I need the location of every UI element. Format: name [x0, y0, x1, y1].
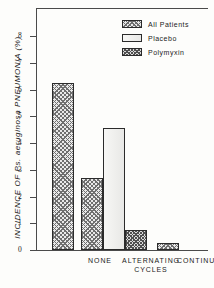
y-axis-tick-label: 7 — [18, 59, 22, 67]
x-axis-category-label: CONTINUOUS — [177, 256, 214, 265]
bar-polymyxin — [125, 230, 147, 250]
x-axis-spine — [36, 250, 208, 251]
legend-swatch-icon — [122, 48, 142, 56]
bar-all-patients — [81, 178, 103, 250]
legend-item-label: All Patients — [148, 21, 189, 28]
y-axis-tick — [30, 223, 36, 224]
y-axis-tick-label: 1 — [18, 220, 22, 228]
bar-all-patients — [157, 243, 179, 250]
x-axis-category-label: NONE — [88, 256, 112, 265]
y-axis-tick-label: 3 — [18, 166, 22, 174]
y-axis-title-prefix: INCIDENCE OF — [13, 172, 22, 239]
y-axis-tick — [30, 90, 36, 91]
figure-canvas: INCIDENCE OF Ps. aeruginosa PNEUMONIA (%… — [0, 0, 214, 288]
y-axis-tick — [30, 143, 36, 144]
y-axis-tick — [30, 36, 36, 37]
legend-item-label: Placebo — [148, 35, 177, 42]
y-axis-title-suffix: PNEUMONIA (%) — [13, 36, 22, 109]
y-axis-tick — [30, 63, 36, 64]
y-axis-tick-label: 4 — [18, 139, 22, 147]
legend-item: All Patients — [122, 18, 189, 30]
y-axis-tick-label: 6 — [18, 86, 22, 94]
y-axis-tick-label: 2 — [18, 193, 22, 201]
x-axis-category-label: ALTERNATING CYCLES — [122, 256, 180, 274]
y-axis-tick — [30, 197, 36, 198]
bar-placebo — [103, 128, 125, 250]
legend-item-label: Polymyxin — [148, 49, 184, 56]
y-axis-tick-label: 5 — [18, 113, 22, 121]
legend-swatch-icon — [122, 20, 142, 28]
bar-all-patients — [52, 83, 74, 250]
y-axis-tick — [30, 250, 36, 251]
y-axis-tick — [30, 170, 36, 171]
chart-legend: All PatientsPlaceboPolymyxin — [122, 18, 189, 60]
legend-item: Placebo — [122, 32, 189, 44]
y-axis-tick-label: 8 — [18, 32, 22, 40]
y-axis-tick — [30, 116, 36, 117]
legend-swatch-icon — [122, 34, 142, 42]
y-axis-tick-label: 0 — [18, 246, 22, 254]
legend-item: Polymyxin — [122, 46, 189, 58]
